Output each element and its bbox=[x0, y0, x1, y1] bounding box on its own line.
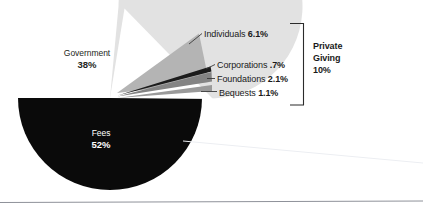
callout-label-bequests-name: Bequests bbox=[219, 88, 256, 98]
callout-label-corporations-name: Corporations bbox=[217, 60, 267, 70]
slice-label-fees-pct: 52% bbox=[92, 139, 111, 150]
pie-chart-figure: Government 38% Fees 52% Individuals 6.1%… bbox=[0, 0, 423, 216]
callout-label-individuals: Individuals 6.1% bbox=[204, 29, 268, 39]
callout-label-individuals-pct: 6.1% bbox=[248, 29, 268, 39]
slice-label-government-pct: 38% bbox=[78, 59, 97, 70]
private-giving-line2: Giving bbox=[313, 53, 340, 63]
callout-label-bequests: Bequests 1.1% bbox=[219, 88, 278, 98]
slice-label-fees: Fees 52% bbox=[62, 128, 140, 151]
slice-label-fees-name: Fees bbox=[92, 128, 111, 138]
callout-label-foundations-pct: 2.1% bbox=[268, 74, 288, 84]
private-giving-line1: Private bbox=[313, 41, 342, 51]
callout-label-corporations: Corporations .7% bbox=[217, 60, 285, 70]
slice-label-government: Government 38% bbox=[48, 48, 126, 71]
callout-label-bequests-pct: 1.1% bbox=[258, 88, 278, 98]
callout-label-foundations-name: Foundations bbox=[217, 74, 265, 84]
background-artifact-line bbox=[183, 141, 423, 163]
callout-label-corporations-pct: .7% bbox=[270, 60, 285, 70]
slice-label-government-name: Government bbox=[64, 48, 110, 58]
callout-label-individuals-name: Individuals bbox=[204, 29, 245, 39]
bottom-divider bbox=[0, 201, 423, 203]
private-giving-annotation: Private Giving 10% bbox=[313, 41, 342, 77]
callout-label-foundations: Foundations 2.1% bbox=[217, 74, 288, 84]
private-giving-line3: 10% bbox=[313, 65, 331, 75]
